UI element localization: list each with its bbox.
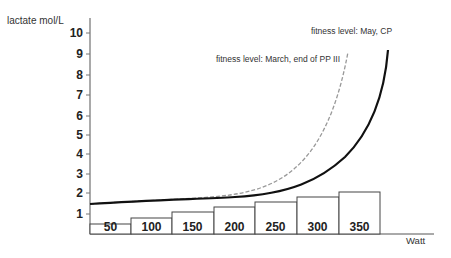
y-tick-1: 1 [63,207,83,221]
bar-label-300: 300 [297,220,338,234]
bar-label-150: 150 [172,220,213,234]
bar-label-200: 200 [214,220,255,234]
y-tick-6: 6 [63,109,83,123]
y-tick-10: 10 [63,26,83,40]
y-axis-label: lactate mol/L [7,15,64,26]
y-tick-8: 8 [63,68,83,82]
x-axis-label: Watt [406,235,425,246]
y-tick-9: 9 [63,47,83,61]
y-tick-3: 3 [63,167,83,181]
bar-label-100: 100 [131,220,172,234]
y-tick-2: 2 [63,186,83,200]
y-tick-4: 4 [63,147,83,161]
y-tick-5: 5 [63,128,83,142]
y-tick-7: 7 [63,88,83,102]
bar-label-50: 50 [90,220,131,234]
y-ticks [86,33,90,214]
annotation-march-pp3: fitness level: March, end of PP III [216,54,340,64]
bar-label-350: 350 [339,220,380,234]
bar-label-250: 250 [255,220,296,234]
annotation-may-cp: fitness level: May, CP [311,26,392,36]
